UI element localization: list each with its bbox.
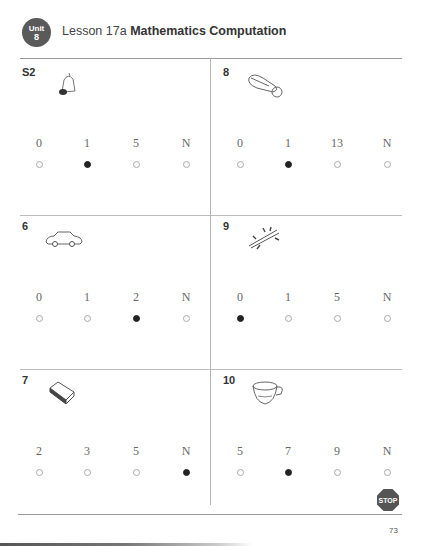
option-label: 2 [121, 290, 151, 305]
answer-bubble[interactable] [237, 161, 244, 168]
page-title: Lesson 17a Mathematics Computation [62, 24, 286, 38]
answer-option[interactable]: N [372, 136, 402, 168]
stop-label: STOP [379, 497, 398, 504]
answer-bubble[interactable] [384, 315, 391, 322]
problem-number: 8 [223, 66, 229, 78]
answer-bubble[interactable] [183, 315, 190, 322]
option-label: N [372, 290, 402, 305]
answer-bubble[interactable] [285, 315, 292, 322]
option-label: 1 [72, 290, 102, 305]
answer-option[interactable]: 2 [24, 444, 54, 476]
problem-panel: 6012N [22, 220, 212, 370]
option-label: N [372, 444, 402, 459]
answer-bubble[interactable] [334, 469, 341, 476]
option-label: 2 [24, 444, 54, 459]
page-number: 73 [389, 526, 398, 535]
option-label: 1 [273, 136, 303, 151]
answer-option[interactable]: 1 [72, 136, 102, 168]
top-divider [20, 58, 402, 59]
answer-bubble[interactable] [183, 161, 190, 168]
answer-bubble[interactable] [133, 161, 140, 168]
answer-bubble[interactable] [84, 469, 91, 476]
problem-panel: 7235N [22, 374, 212, 524]
answer-option[interactable]: 7 [273, 444, 303, 476]
answer-bubble-filled[interactable] [183, 469, 190, 476]
unit-badge: Unit 8 [22, 18, 51, 47]
answer-option[interactable]: N [372, 444, 402, 476]
answer-bubble[interactable] [237, 469, 244, 476]
answer-option[interactable]: N [171, 444, 201, 476]
answer-option[interactable]: 1 [273, 136, 303, 168]
answer-bubble[interactable] [384, 161, 391, 168]
problem-number: 6 [22, 220, 28, 232]
answer-option[interactable]: 5 [322, 290, 352, 322]
answer-bubble-filled[interactable] [285, 469, 292, 476]
answer-option[interactable]: 3 [72, 444, 102, 476]
problem-panel: 9015N [223, 220, 413, 370]
subject-label: Mathematics Computation [130, 24, 286, 38]
cup-icon [249, 378, 289, 408]
answer-bubble-filled[interactable] [133, 315, 140, 322]
unit-number: 8 [34, 33, 39, 42]
bell-icon [48, 70, 88, 100]
option-label: 5 [121, 136, 151, 151]
answer-bubble[interactable] [84, 315, 91, 322]
answer-bubble[interactable] [133, 469, 140, 476]
answer-option[interactable]: 1 [72, 290, 102, 322]
option-label: 0 [24, 290, 54, 305]
broken-stick-icon [245, 224, 285, 254]
problem-number: S2 [22, 66, 35, 78]
problem-panel: S2015N [22, 66, 212, 216]
answer-bubble[interactable] [334, 161, 341, 168]
answer-option[interactable]: N [171, 136, 201, 168]
option-label: N [171, 444, 201, 459]
computer-mouse-icon [245, 70, 285, 100]
option-label: 0 [225, 290, 255, 305]
answer-bubble-filled[interactable] [285, 161, 292, 168]
option-label: 3 [72, 444, 102, 459]
answer-option[interactable]: 0 [225, 290, 255, 322]
option-label: 5 [322, 290, 352, 305]
option-label: 1 [273, 290, 303, 305]
answer-option[interactable]: 5 [121, 136, 151, 168]
answer-bubble[interactable] [36, 315, 43, 322]
answer-bubble[interactable] [384, 469, 391, 476]
answer-option[interactable]: 0 [24, 136, 54, 168]
option-label: 13 [322, 136, 352, 151]
option-label: N [171, 290, 201, 305]
answer-option[interactable]: 9 [322, 444, 352, 476]
stop-sign-icon: STOP [377, 489, 399, 511]
answer-option[interactable]: N [171, 290, 201, 322]
option-label: 7 [273, 444, 303, 459]
answer-option[interactable]: 2 [121, 290, 151, 322]
answer-option[interactable]: 1 [273, 290, 303, 322]
answer-option[interactable]: 13 [322, 136, 352, 168]
answer-bubble[interactable] [36, 469, 43, 476]
answer-option[interactable]: 0 [24, 290, 54, 322]
car-icon [44, 224, 84, 254]
problem-number: 7 [22, 374, 28, 386]
option-label: 5 [225, 444, 255, 459]
problem-panel: 80113N [223, 66, 413, 216]
problem-number: 9 [223, 220, 229, 232]
problem-number: 10 [223, 374, 235, 386]
option-label: N [372, 136, 402, 151]
option-label: N [171, 136, 201, 151]
answer-option[interactable]: 0 [225, 136, 255, 168]
answer-option[interactable]: 5 [121, 444, 151, 476]
answer-bubble-filled[interactable] [237, 315, 244, 322]
book-icon [44, 378, 84, 408]
option-label: 0 [24, 136, 54, 151]
option-label: 0 [225, 136, 255, 151]
answer-bubble-filled[interactable] [84, 161, 91, 168]
option-label: 1 [72, 136, 102, 151]
answer-option[interactable]: 5 [225, 444, 255, 476]
option-label: 5 [121, 444, 151, 459]
answer-bubble[interactable] [334, 315, 341, 322]
answer-bubble[interactable] [36, 161, 43, 168]
answer-option[interactable]: N [372, 290, 402, 322]
option-label: 9 [322, 444, 352, 459]
lesson-label: Lesson 17a [62, 24, 127, 38]
